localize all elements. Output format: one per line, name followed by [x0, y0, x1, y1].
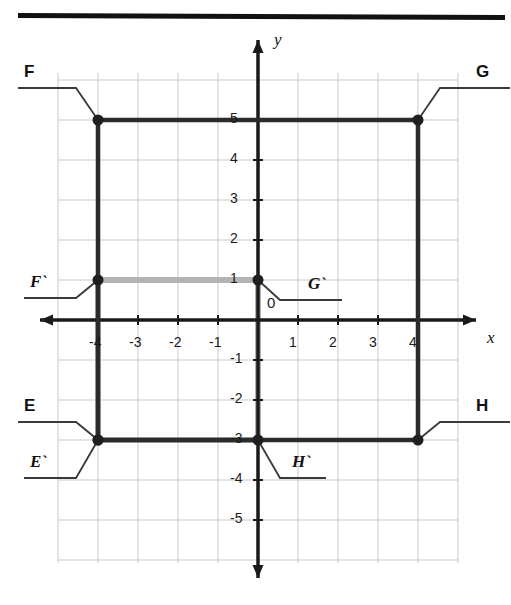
vertex-label-Ep: E` — [30, 452, 47, 472]
x-tick-label: -1 — [209, 334, 221, 350]
y-tick-label: 4 — [230, 150, 238, 166]
y-tick-label: -2 — [230, 390, 242, 406]
vertex-dot — [93, 275, 104, 286]
vertex-dot — [93, 435, 104, 446]
x-tick-label: 4 — [409, 334, 417, 350]
y-tick-label: -3 — [230, 430, 242, 446]
axis-arrowhead — [463, 315, 476, 326]
vertex-label-Fp: F` — [30, 272, 47, 292]
y-tick-label: -5 — [230, 510, 242, 526]
y-tick-label: -1 — [230, 350, 242, 366]
top-horizontal-rule — [18, 16, 505, 18]
top-rule — [18, 16, 505, 18]
origin-label: 0 — [267, 294, 275, 311]
vertex-label-G: G — [476, 62, 489, 82]
vertex-dot — [93, 115, 104, 126]
y-tick-label: 5 — [230, 110, 238, 126]
y-tick-label: 2 — [230, 230, 238, 246]
y-tick-label: 3 — [230, 190, 238, 206]
vertex-label-Gp: G` — [308, 274, 326, 294]
y-axis-label: y — [274, 30, 282, 50]
x-tick-label: -2 — [169, 334, 181, 350]
leader-line-H — [418, 422, 510, 440]
coordinate-plane-svg — [0, 0, 511, 605]
vertex-dot — [253, 435, 264, 446]
vertex-label-H: H — [476, 396, 488, 416]
figure-canvas: FGEHF`G`E`H`-4-3-2-1123454321-1-2-3-4-50… — [0, 0, 511, 605]
y-tick-label: -4 — [230, 470, 242, 486]
vertex-label-E: E — [24, 396, 35, 416]
vertex-dot — [253, 275, 264, 286]
axis-arrowhead — [253, 40, 264, 53]
y-tick-label: 1 — [230, 270, 238, 286]
x-axis-label: x — [487, 328, 495, 348]
vertex-dot — [413, 115, 424, 126]
callout-leader-lines — [18, 88, 510, 478]
x-tick-label: 1 — [289, 334, 297, 350]
x-tick-label: 2 — [329, 334, 337, 350]
vertex-label-Hp: H` — [292, 452, 311, 472]
x-tick-label: 3 — [369, 334, 377, 350]
x-tick-label: -4 — [89, 334, 101, 350]
axis-arrowhead — [40, 315, 53, 326]
axis-arrowhead — [253, 565, 264, 578]
x-tick-label: -3 — [129, 334, 141, 350]
vertex-dot — [413, 435, 424, 446]
leader-line-G — [418, 88, 510, 120]
vertex-label-F: F — [24, 62, 34, 82]
